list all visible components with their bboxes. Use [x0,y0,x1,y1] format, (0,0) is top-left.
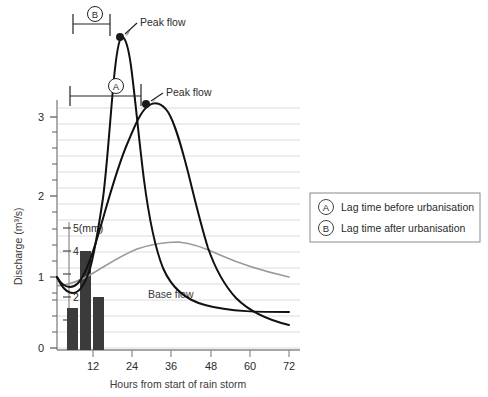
x-tick-label-72: 72 [283,360,295,372]
rainfall-bar [80,251,91,350]
hydrograph-after-urbanisation [57,37,289,312]
rainfall-axis-ticks [63,228,71,320]
y-axis-title: Discharge (m³/s) [12,207,24,285]
x-tick-label-24: 24 [126,360,138,372]
rainfall-bar [93,297,104,350]
peak-flow-label-a: Peak flow [166,86,212,98]
rainfall-bar [67,308,78,350]
annotation-marker-b: B [92,9,98,20]
peak-flow-dot-b [116,33,124,41]
x-tick-label-36: 36 [165,360,177,372]
legend-label-b: Lag time after urbanisation [341,222,465,234]
x-tick-label-12: 12 [87,360,99,372]
rainfall-axis-label-4: 4 [73,245,79,257]
legend-marker-b: B [323,223,329,234]
hydrograph-chart: 0 1 2 3 Discharge (m³/s) 12 24 36 48 60 … [0,0,488,397]
y-tick-label-0: 0 [38,342,44,354]
annotation-marker-a: A [113,81,120,92]
peak-flow-dot-a [142,100,150,108]
annotation-b: B Peak flow [73,7,186,42]
y-tick-label-1: 1 [38,271,44,283]
x-axis-ticks [93,350,289,357]
legend-label-a: Lag time before urbanisation [341,201,474,213]
y-tick-label-3: 3 [38,111,44,123]
legend: A Lag time before urbanisation B Lag tim… [310,193,480,242]
y-axis-major-ticks [50,117,57,348]
legend-marker-a: A [323,202,330,213]
x-axis-title: Hours from start of rain storm [110,378,247,390]
x-tick-label-48: 48 [205,360,217,372]
y-axis-minor-ticks [52,132,57,332]
y-tick-label-2: 2 [38,190,44,202]
hydrograph-figure: 0 1 2 3 Discharge (m³/s) 12 24 36 48 60 … [0,0,488,397]
x-tick-label-60: 60 [244,360,256,372]
peak-flow-label-b: Peak flow [140,16,186,28]
annotation-a: A Peak flow [70,79,212,109]
